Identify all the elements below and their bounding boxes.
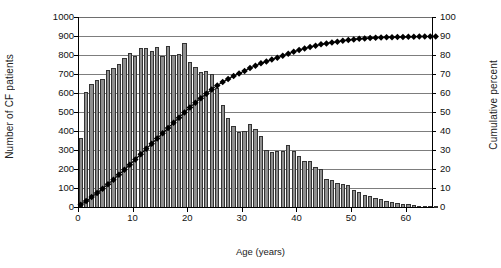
cumulative-marker — [296, 47, 303, 54]
y-axis-right-ticklabel: 60 — [440, 87, 451, 98]
cumulative-marker — [301, 45, 308, 52]
cumulative-marker — [400, 34, 407, 41]
bar — [434, 206, 438, 208]
cumulative-line — [81, 36, 436, 204]
cumulative-marker — [263, 58, 270, 65]
cumulative-marker — [432, 33, 439, 40]
x-axis-ticklabel: 40 — [291, 212, 302, 223]
cumulative-marker — [389, 34, 396, 41]
cumulative-marker — [225, 76, 232, 83]
cumulative-marker — [383, 34, 390, 41]
y-axis-left-ticklabels: 10009008007006005004003002001000 — [34, 17, 74, 208]
y-axis-right-ticklabel: 10 — [440, 182, 451, 193]
cumulative-marker — [334, 38, 341, 45]
y-axis-right-ticklabel: 70 — [440, 68, 451, 79]
cumulative-marker — [323, 40, 330, 47]
cumulative-marker — [361, 35, 368, 42]
y-axis-left-ticklabel: 700 — [58, 68, 74, 79]
y-axis-right-line — [432, 17, 433, 208]
cumulative-marker — [280, 53, 287, 60]
y-axis-left-ticklabel: 300 — [58, 144, 74, 155]
cumulative-marker — [356, 36, 363, 43]
cumulative-marker — [378, 34, 385, 41]
cumulative-marker — [318, 41, 325, 48]
y-axis-left-title: Number of CF patients — [4, 54, 15, 159]
y-axis-left-ticklabel: 500 — [58, 106, 74, 117]
chart-figure: Number of CF patients Cumulative percent… — [0, 0, 501, 268]
x-axis-ticklabels: 0102030405060 — [78, 212, 433, 228]
x-axis-line — [78, 207, 433, 208]
y-axis-left-ticklabel: 800 — [58, 49, 74, 60]
y-axis-right-ticklabel: 90 — [440, 30, 451, 41]
cumulative-marker — [367, 35, 374, 42]
y-axis-right-title: Cumulative percent — [488, 60, 499, 150]
y-axis-left-ticklabel: 900 — [58, 30, 74, 41]
y-axis-left-ticklabel: 100 — [58, 182, 74, 193]
y-axis-right-ticklabel: 20 — [440, 163, 451, 174]
cumulative-marker — [230, 73, 237, 80]
cumulative-marker — [290, 49, 297, 56]
cumulative-marker — [285, 50, 292, 57]
plot-area — [78, 17, 433, 208]
y-axis-right-ticklabel: 0 — [440, 201, 445, 212]
x-axis-title: Age (years) — [0, 246, 501, 257]
x-axis-ticklabel: 0 — [75, 212, 80, 223]
y-axis-right-ticklabel: 50 — [440, 106, 451, 117]
cumulative-marker — [247, 65, 254, 72]
y-axis-left-ticklabel: 600 — [58, 87, 74, 98]
cumulative-marker — [269, 56, 276, 63]
y-axis-left-line — [78, 17, 79, 208]
y-axis-left-ticklabel: 200 — [58, 163, 74, 174]
cumulative-marker — [372, 34, 379, 41]
y-axis-right-ticklabels: 1009080706050403020100 — [440, 17, 480, 208]
y-axis-right-ticklabel: 100 — [440, 11, 456, 22]
x-axis-ticklabel: 10 — [127, 212, 138, 223]
cumulative-marker — [219, 79, 226, 86]
y-axis-right-ticklabel: 30 — [440, 144, 451, 155]
cumulative-marker — [274, 54, 281, 61]
cumulative-marker — [345, 37, 352, 44]
cumulative-line-series — [78, 17, 433, 208]
x-axis-ticklabel: 20 — [182, 212, 193, 223]
cumulative-marker — [236, 70, 243, 77]
x-axis-ticklabel: 30 — [237, 212, 248, 223]
cumulative-marker — [312, 42, 319, 49]
y-axis-right-ticklabel: 80 — [440, 49, 451, 60]
x-axis-ticklabel: 50 — [346, 212, 357, 223]
x-axis-ticklabel: 60 — [400, 212, 411, 223]
cumulative-marker — [241, 68, 248, 75]
cumulative-marker — [411, 34, 418, 41]
y-axis-left-ticklabel: 1000 — [53, 11, 74, 22]
y-axis-left-ticklabel: 400 — [58, 125, 74, 136]
cumulative-marker — [351, 36, 358, 43]
cumulative-marker — [340, 37, 347, 44]
cumulative-marker — [329, 39, 336, 46]
cumulative-marker — [307, 44, 314, 51]
y-axis-right-ticklabel: 40 — [440, 125, 451, 136]
